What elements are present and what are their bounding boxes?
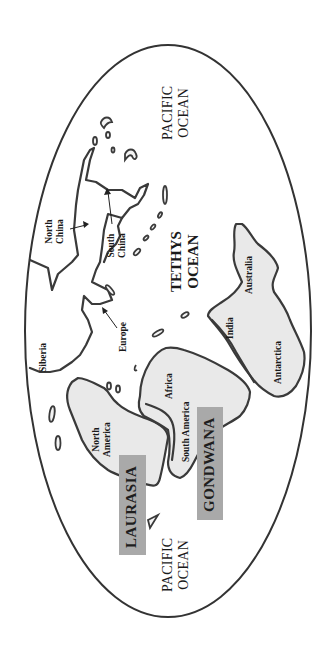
north-america-label: North America bbox=[91, 422, 113, 457]
antarctica-label: Antarctica bbox=[273, 341, 284, 384]
south-china-label: South China bbox=[106, 233, 128, 258]
north-china-line1: North bbox=[44, 219, 55, 244]
north-china-line2: China bbox=[55, 219, 66, 244]
south-china-line1: South bbox=[106, 233, 117, 258]
pacific-ocean-bottom-line2: OCEAN bbox=[176, 538, 192, 593]
pacific-ocean-top-line2: OCEAN bbox=[176, 86, 192, 141]
europe-label: Europe bbox=[118, 322, 129, 352]
africa-text: Africa bbox=[164, 373, 175, 399]
india-label: India bbox=[225, 317, 236, 339]
pacific-ocean-top-label: PACIFIC OCEAN bbox=[160, 86, 192, 141]
south-china-line2: China bbox=[117, 233, 128, 258]
europe-text: Europe bbox=[118, 322, 129, 352]
tethys-ocean-label: TETHYS OCEAN bbox=[168, 231, 202, 292]
north-america-line1: North bbox=[91, 422, 102, 457]
laurasia-text: LAURASIA bbox=[123, 466, 139, 548]
gondwana-label: GONDWANA bbox=[202, 417, 217, 512]
siberia-text: Siberia bbox=[38, 343, 49, 372]
pacific-ocean-bottom-label: PACIFIC OCEAN bbox=[160, 538, 192, 593]
siberia-label: Siberia bbox=[38, 343, 49, 372]
gondwana-text: GONDWANA bbox=[201, 417, 217, 512]
australia-text: Australia bbox=[244, 256, 255, 294]
tethys-ocean-line2: OCEAN bbox=[185, 231, 202, 292]
laurasia-label: LAURASIA bbox=[124, 466, 139, 548]
north-america-line2: America bbox=[102, 422, 113, 457]
africa-label: Africa bbox=[164, 373, 175, 399]
north-china-label: North China bbox=[44, 219, 66, 244]
south-america-label: South America bbox=[181, 402, 192, 462]
pacific-ocean-bottom-line1: PACIFIC bbox=[160, 538, 176, 593]
antarctica-text: Antarctica bbox=[273, 341, 284, 384]
tethys-ocean-line1: TETHYS bbox=[168, 231, 185, 292]
australia-label: Australia bbox=[244, 256, 255, 294]
pacific-ocean-top-line1: PACIFIC bbox=[160, 86, 176, 141]
south-america-text: South America bbox=[181, 402, 192, 462]
india-text: India bbox=[225, 317, 236, 339]
